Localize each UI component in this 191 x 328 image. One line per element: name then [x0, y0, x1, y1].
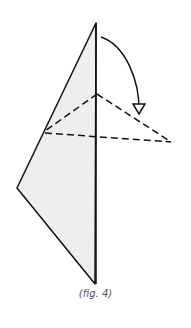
dashed-fold-line — [97, 94, 171, 142]
paper-shaded-region — [17, 23, 96, 284]
fold-diagram — [0, 0, 191, 328]
figure-caption: (fig. 4) — [0, 288, 191, 299]
fold-arrow-icon — [101, 37, 139, 113]
arrow-head-icon — [133, 104, 145, 114]
